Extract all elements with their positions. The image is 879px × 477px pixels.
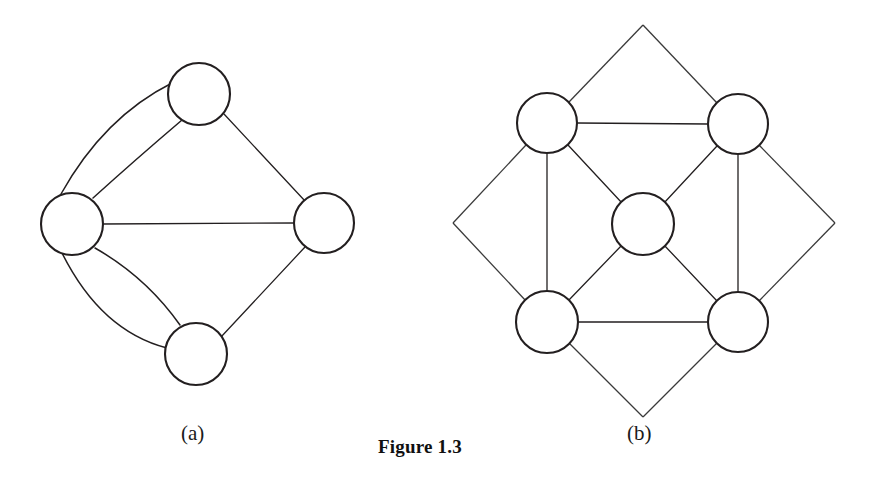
panel-label-a: (a) (181, 423, 204, 444)
node-b-center[interactable] (612, 193, 674, 255)
figure-graphics (0, 0, 879, 477)
frame-segment-top-right (643, 25, 717, 103)
panel-a-graph (41, 63, 354, 385)
frame-segment-right-lower (759, 223, 835, 301)
frame-segment-left-lower (453, 223, 526, 301)
edge-bottom-right (221, 247, 305, 337)
frame-segment-right-upper (759, 145, 835, 223)
edge-left-bottom-2 (95, 248, 180, 325)
edge-b-top-left-top-right (577, 123, 708, 124)
node-a-left[interactable] (41, 193, 103, 255)
edge-left-bottom-1 (62, 253, 167, 348)
node-b-bottom-right[interactable] (708, 292, 768, 352)
edge-left-right (102, 223, 295, 224)
edge-b-bottom-right-center (664, 245, 717, 301)
panel-b-graph (453, 25, 835, 417)
edge-b-top-right-center (664, 146, 717, 203)
edge-b-top-left-center (568, 145, 622, 203)
frame-segment-bottom-left (569, 343, 643, 417)
panel-label-b: (b) (627, 423, 652, 444)
node-a-bottom[interactable] (165, 323, 227, 385)
node-b-top-right[interactable] (708, 94, 768, 154)
node-a-right[interactable] (294, 193, 354, 253)
edge-b-bottom-left-center (568, 245, 622, 301)
node-a-top[interactable] (168, 63, 230, 125)
figure-caption: Figure 1.3 (378, 436, 462, 458)
edge-top-right (224, 114, 305, 201)
figure-container: (a) (b) Figure 1.3 (0, 0, 879, 477)
frame-segment-left-upper (453, 145, 526, 223)
frame-segment-bottom-right (643, 343, 717, 417)
node-b-top-left[interactable] (517, 93, 577, 153)
node-b-bottom-left[interactable] (516, 291, 578, 353)
frame-segment-top-left (569, 25, 643, 102)
